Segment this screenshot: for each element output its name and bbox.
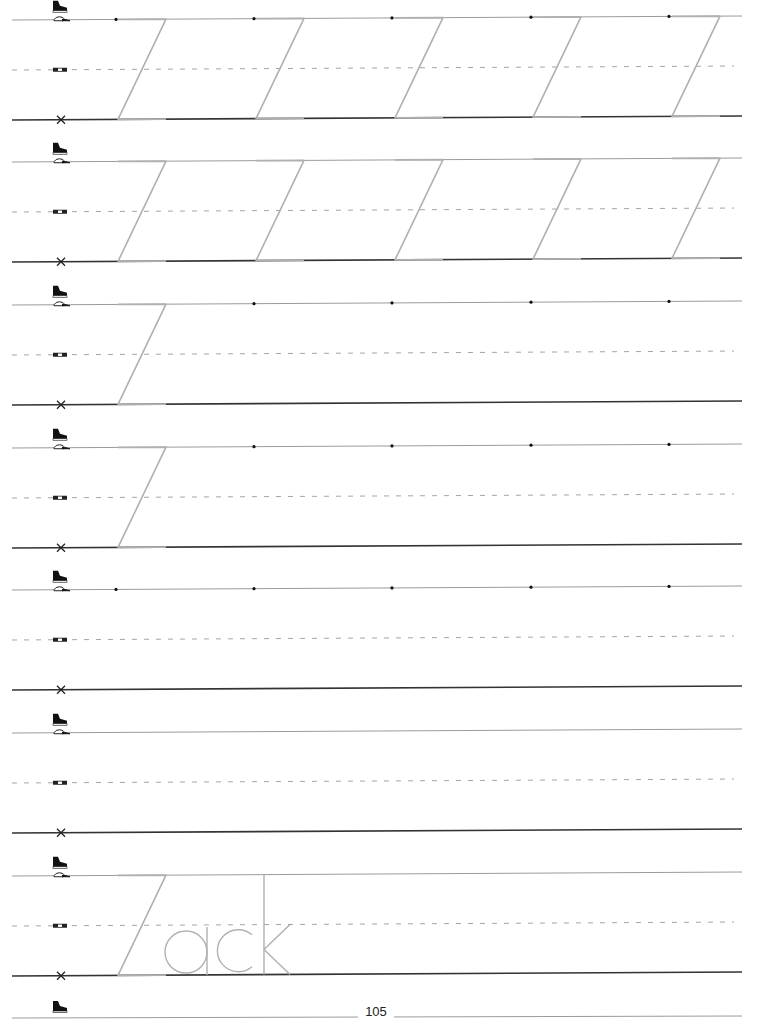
midline-dashed (12, 494, 734, 498)
midline-dashed (12, 66, 734, 70)
start-dot (667, 15, 670, 18)
sneaker-icon (53, 571, 67, 583)
start-dot (390, 16, 393, 19)
sneaker-icon (53, 143, 67, 155)
start-dot (114, 588, 117, 591)
belt-buckle (58, 69, 62, 71)
traced-letter-a (165, 931, 207, 973)
traced-letter-c (217, 930, 252, 972)
baseline (12, 829, 742, 833)
start-dot (667, 300, 670, 303)
traced-letter-k-arms (264, 924, 290, 974)
belt-buckle (58, 782, 62, 784)
start-dot (529, 586, 532, 589)
midline-dashed (12, 351, 734, 355)
midline-dashed (12, 208, 734, 212)
cap-icon (54, 302, 70, 307)
start-dot (529, 301, 532, 304)
sneaker-icon (53, 1001, 67, 1013)
cap-icon (54, 445, 70, 450)
belt-buckle (58, 497, 62, 499)
start-dot (252, 445, 255, 448)
sneaker-icon (53, 857, 67, 869)
top-guide-line (12, 586, 742, 590)
cap-icon (54, 873, 70, 878)
start-dot (667, 585, 670, 588)
belt-buckle (58, 639, 62, 641)
page-number: 105 (358, 1004, 394, 1019)
midline-dashed (12, 636, 734, 640)
sneaker-icon (53, 286, 67, 298)
start-dot (114, 18, 117, 21)
belt-buckle (58, 211, 62, 213)
sneaker-icon (53, 1, 67, 13)
top-guide-line (12, 729, 742, 733)
midline-dashed (12, 779, 734, 783)
start-dot (390, 586, 393, 589)
start-dot (667, 443, 670, 446)
belt-buckle (58, 354, 62, 356)
start-dot (390, 301, 393, 304)
baseline (12, 686, 742, 690)
sneaker-icon (53, 714, 67, 726)
cap-icon (54, 730, 70, 735)
midline-dashed (12, 922, 734, 926)
cap-icon (54, 587, 70, 592)
cap-icon (54, 159, 70, 164)
cap-icon (54, 17, 70, 22)
traced-letter-z (256, 18, 304, 118)
start-dot (252, 302, 255, 305)
handwriting-worksheet (0, 0, 758, 1036)
sneaker-icon (53, 429, 67, 441)
start-dot (529, 16, 532, 19)
start-dot (529, 444, 532, 447)
belt-buckle (58, 925, 62, 927)
start-dot (252, 587, 255, 590)
start-dot (252, 17, 255, 20)
traced-letter-z (256, 160, 304, 260)
start-dot (390, 444, 393, 447)
